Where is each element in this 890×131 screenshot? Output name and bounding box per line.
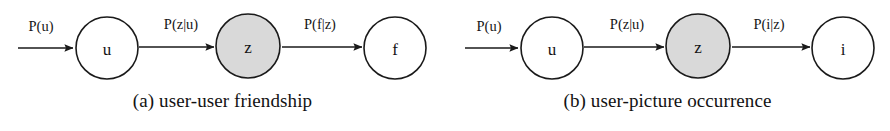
caption-a: (a) user-user friendship [0, 90, 445, 112]
diagram-a-graph: P(u) P(z|u) P(f|z) u z f [0, 0, 445, 88]
node-a-f-label: f [392, 40, 398, 59]
diagram-a-user-user-friendship: P(u) P(z|u) P(f|z) u z f (a) user-user f… [0, 0, 445, 131]
edge-label-b-1: P(z|u) [610, 16, 644, 33]
edge-label-a-2: P(f|z) [304, 16, 336, 33]
figure-root: P(u) P(z|u) P(f|z) u z f (a) user-user f… [0, 0, 890, 131]
node-b-z-label: z [694, 38, 702, 57]
node-b-u-label: u [548, 40, 557, 59]
edge-label-a-0: P(u) [29, 18, 54, 35]
edge-label-a-1: P(z|u) [164, 16, 198, 33]
node-a-z-label: z [244, 38, 252, 57]
diagram-b-user-picture-occurrence: P(u) P(z|u) P(i|z) u z i (b) user-pictur… [445, 0, 890, 131]
node-b-i-label: i [841, 40, 846, 59]
caption-b: (b) user-picture occurrence [445, 90, 890, 112]
edge-label-b-2: P(i|z) [753, 16, 784, 33]
diagram-b-graph: P(u) P(z|u) P(i|z) u z i [445, 0, 890, 88]
node-a-u-label: u [103, 40, 112, 59]
edge-label-b-0: P(u) [477, 18, 502, 35]
